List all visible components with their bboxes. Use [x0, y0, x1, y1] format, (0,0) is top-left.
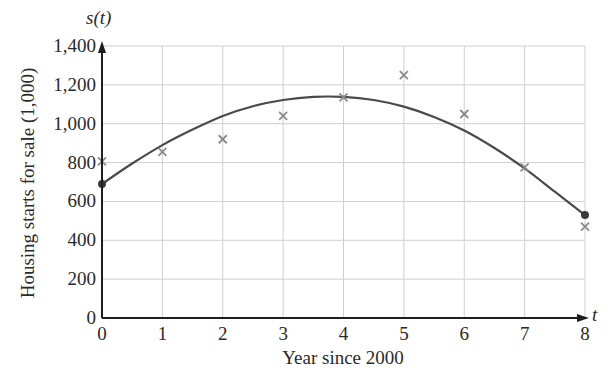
x-axis-variable: t: [592, 304, 598, 325]
y-tick-label: 1,400: [53, 35, 96, 56]
y-axis-variable: s(t): [86, 7, 111, 29]
y-tick-label: 800: [68, 152, 97, 173]
x-tick-label: 7: [520, 323, 530, 344]
y-tick-label: 600: [68, 190, 97, 211]
y-tick-label: 400: [68, 229, 97, 250]
y-tick-labels: 02004006008001,0001,2001,400: [53, 35, 96, 328]
x-tick-labels: 012345678: [97, 323, 590, 344]
endpoint-dot: [581, 211, 589, 219]
y-tick-label: 0: [87, 307, 97, 328]
x-tick-label: 5: [399, 323, 409, 344]
grid-lines: [102, 46, 585, 318]
x-axis-arrow-icon: [577, 314, 589, 322]
x-tick-label: 4: [339, 323, 349, 344]
x-tick-label: 2: [218, 323, 228, 344]
housing-starts-chart: 02004006008001,0001,2001,400 012345678 s…: [0, 0, 613, 382]
x-tick-label: 6: [460, 323, 470, 344]
x-tick-label: 1: [158, 323, 168, 344]
y-tick-label: 200: [68, 268, 97, 289]
x-tick-label: 3: [278, 323, 288, 344]
x-tick-label: 8: [580, 323, 590, 344]
y-tick-label: 1,200: [53, 74, 96, 95]
y-axis-arrow-icon: [98, 41, 106, 53]
y-axis-title: Housing starts for sale (1,000): [17, 68, 39, 299]
x-tick-label: 0: [97, 323, 107, 344]
x-axis-title: Year since 2000: [282, 347, 404, 368]
y-tick-label: 1,000: [53, 113, 96, 134]
